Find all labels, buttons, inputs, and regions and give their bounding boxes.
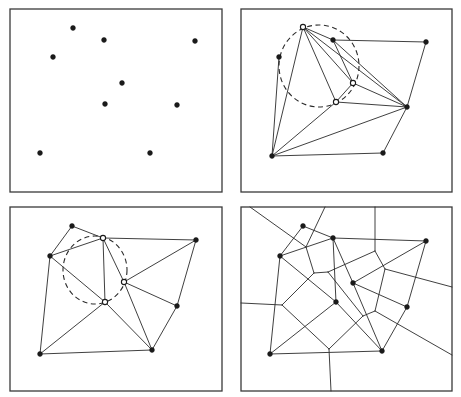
site-point <box>381 151 386 156</box>
site-point <box>120 81 125 86</box>
affected-point <box>350 80 355 85</box>
site-point <box>278 254 283 259</box>
site-point <box>38 352 43 357</box>
panel-point-set <box>10 9 222 192</box>
site-point <box>175 103 180 108</box>
affected-point <box>100 235 105 240</box>
site-point <box>331 38 336 43</box>
site-point <box>38 151 43 156</box>
site-point <box>334 300 339 305</box>
site-point <box>71 26 76 31</box>
affected-point <box>121 279 126 284</box>
panel-frame <box>10 207 222 391</box>
site-point <box>424 239 429 244</box>
site-point <box>405 305 410 310</box>
site-point <box>148 151 153 156</box>
panel-frame <box>10 9 222 192</box>
site-point <box>268 352 273 357</box>
panel-frame <box>241 207 452 391</box>
site-point <box>331 236 336 241</box>
affected-point <box>333 99 338 104</box>
site-point <box>70 224 75 229</box>
delaunay-voronoi-figure <box>0 0 461 397</box>
site-point <box>175 304 180 309</box>
panel-invalid-triangulation <box>241 9 452 192</box>
panel-delaunay-triangulation <box>10 207 222 391</box>
site-point <box>193 39 198 44</box>
site-point <box>405 105 410 110</box>
site-point <box>351 281 356 286</box>
site-point <box>150 348 155 353</box>
figure-canvas <box>0 0 461 397</box>
site-point <box>270 154 275 159</box>
panel-voronoi-diagram <box>241 207 452 391</box>
site-point <box>51 55 56 60</box>
site-point <box>102 38 107 43</box>
site-point <box>48 254 53 259</box>
site-point <box>103 102 108 107</box>
site-point <box>424 40 429 45</box>
site-point <box>380 349 385 354</box>
affected-point <box>300 24 305 29</box>
site-point <box>277 55 282 60</box>
affected-point <box>102 299 107 304</box>
site-point <box>301 224 306 229</box>
site-point <box>194 238 199 243</box>
